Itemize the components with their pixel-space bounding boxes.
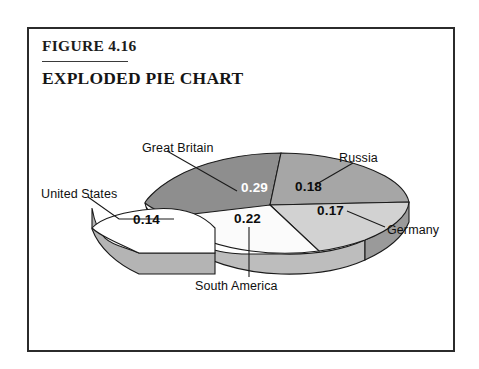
exploded-pie-chart: Great Britain Russia Germany South Ameri… [29,29,457,354]
pie-value-south-america: 0.22 [234,211,261,226]
pie-label-germany: Germany [387,223,439,237]
pie-label-great-britain: Great Britain [142,141,213,155]
pie-label-south-america: South America [195,279,278,293]
pie-label-russia: Russia [339,151,378,165]
pie-label-united-states: United States [41,187,117,201]
pie-value-germany: 0.17 [317,203,344,218]
figure-frame: FIGURE 4.16 EXPLODED PIE CHART [27,27,455,352]
pie-value-great-britain: 0.29 [241,180,268,195]
pie-value-russia: 0.18 [295,179,322,194]
pie-value-united-states: 0.14 [133,212,160,227]
